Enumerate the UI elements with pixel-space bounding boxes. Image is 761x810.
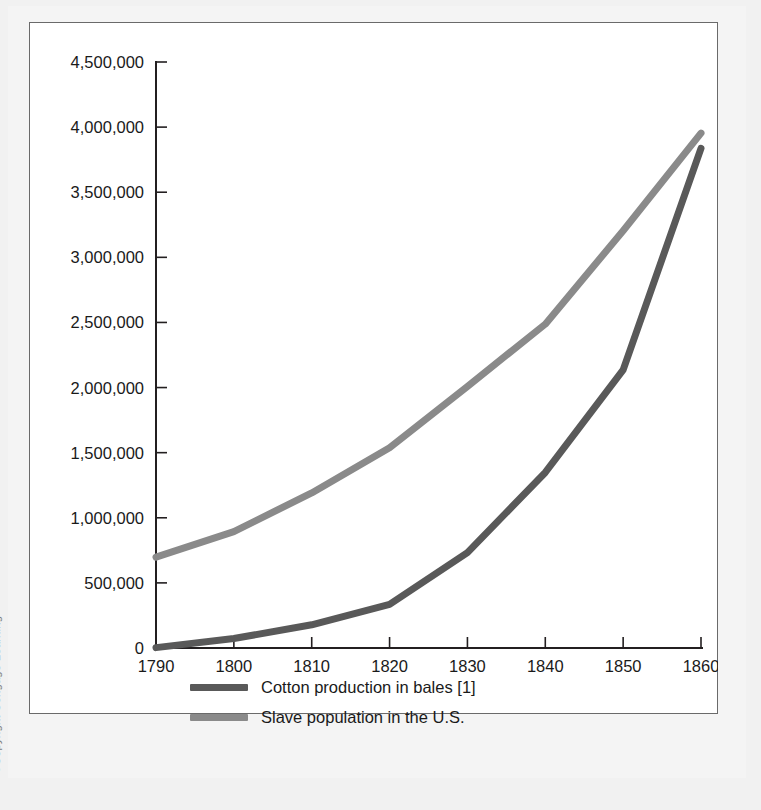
legend-swatch-cotton <box>190 684 248 691</box>
y-axis: 0500,0001,000,0001,500,0002,000,0002,500… <box>71 53 167 657</box>
y-axis-tick-label: 1,000,000 <box>71 509 144 527</box>
figure-page: ©Copyright Cengage Learning 0500,0001,00… <box>0 0 761 810</box>
y-axis-tick-label: 2,000,000 <box>71 379 144 397</box>
series-line <box>156 148 701 647</box>
legend-item: Slave population in the U.S. <box>190 702 670 732</box>
x-axis-tick-label: 1860 <box>683 657 718 675</box>
legend-label: Slave population in the U.S. <box>261 708 465 727</box>
series-lines <box>156 133 701 648</box>
y-axis-tick-label: 2,500,000 <box>71 313 144 331</box>
legend-swatch-slaves <box>190 714 248 721</box>
chart-legend: Cotton production in bales [1] Slave pop… <box>190 672 670 732</box>
y-axis-tick-label: 1,500,000 <box>71 444 144 462</box>
series-line <box>156 133 701 557</box>
legend-item: Cotton production in bales [1] <box>190 672 670 702</box>
copyright-attribution: ©Copyright Cengage Learning <box>0 616 2 774</box>
line-chart: 0500,0001,000,0001,500,0002,000,0002,500… <box>29 22 718 714</box>
y-axis-tick-label: 0 <box>135 639 144 657</box>
legend-label: Cotton production in bales [1] <box>261 678 476 697</box>
y-axis-tick-label: 500,000 <box>84 574 144 592</box>
y-axis-tick-label: 3,500,000 <box>71 183 144 201</box>
y-axis-tick-label: 3,000,000 <box>71 248 144 266</box>
x-axis-tick-label: 1790 <box>138 657 175 675</box>
y-axis-tick-label: 4,000,000 <box>71 118 144 136</box>
y-axis-tick-label: 4,500,000 <box>71 53 144 71</box>
